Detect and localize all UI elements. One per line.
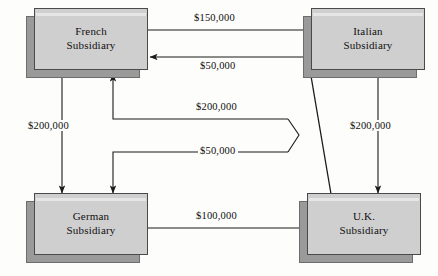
node-italian-subsidiary[interactable]: Italian Subsidiary [311,8,425,70]
edge-italian-to-german [113,152,288,193]
french-label-line1: French [75,25,107,37]
edge-uk-to-french [113,74,288,119]
diagram-canvas: French Subsidiary Italian Subsidiary Ger… [0,0,438,276]
french-label-line2: Subsidiary [66,39,115,51]
german-subsidiary-label: German Subsidiary [66,210,115,238]
node-highlight [36,198,146,201]
amount-label-french-to-italian: $150,000 [192,12,237,23]
node-french-subsidiary[interactable]: French Subsidiary [34,8,148,70]
edge-convergence-vertex [288,119,299,152]
amount-label-italian-to-german: $50,000 [198,145,238,156]
amount-label-italian-to-french: $50,000 [198,60,238,71]
node-german-subsidiary[interactable]: German Subsidiary [34,193,148,255]
amount-label-french-to-german: $200,000 [26,120,71,131]
italian-label-line1: Italian [353,25,383,37]
node-highlight [309,198,419,201]
uk-label-line1: U.K. [353,210,375,222]
italian-label-line2: Subsidiary [343,39,392,51]
amount-label-uk-to-french: $200,000 [194,101,239,112]
node-uk-subsidiary[interactable]: U.K. Subsidiary [307,193,421,255]
node-highlight [36,13,146,16]
edge-italian-to-uk-diagonal [311,76,331,194]
italian-subsidiary-label: Italian Subsidiary [343,25,392,53]
node-highlight [313,13,423,16]
uk-label-line2: Subsidiary [339,224,388,236]
uk-subsidiary-label: U.K. Subsidiary [339,210,388,238]
amount-label-german-to-uk: $100,000 [194,210,239,221]
german-label-line1: German [73,210,110,222]
french-subsidiary-label: French Subsidiary [66,25,115,53]
amount-label-italian-to-uk: $200,000 [348,120,393,131]
german-label-line2: Subsidiary [66,224,115,236]
